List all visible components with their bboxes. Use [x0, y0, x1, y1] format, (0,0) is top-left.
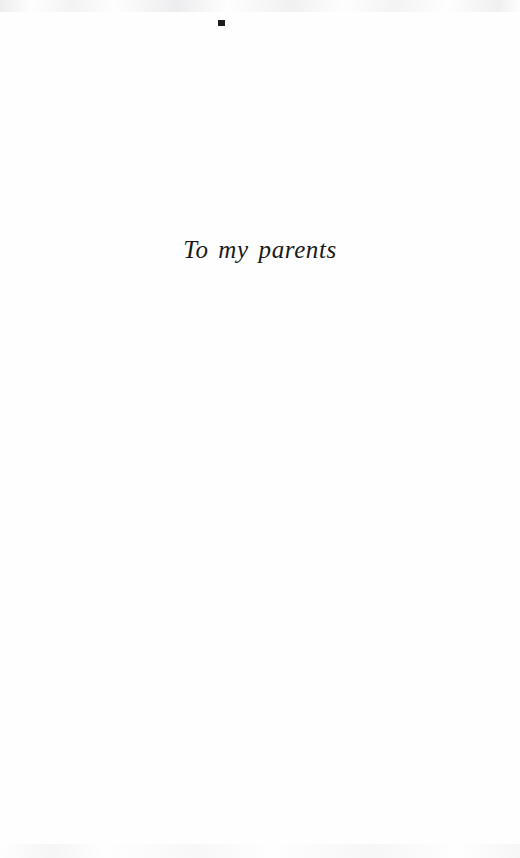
scan-noise-bottom: [0, 844, 520, 858]
dedication-text: To my parents: [0, 233, 520, 267]
book-page: To my parents: [0, 0, 520, 858]
scan-noise-top: [0, 0, 520, 12]
scan-speck-mark: [218, 20, 225, 26]
